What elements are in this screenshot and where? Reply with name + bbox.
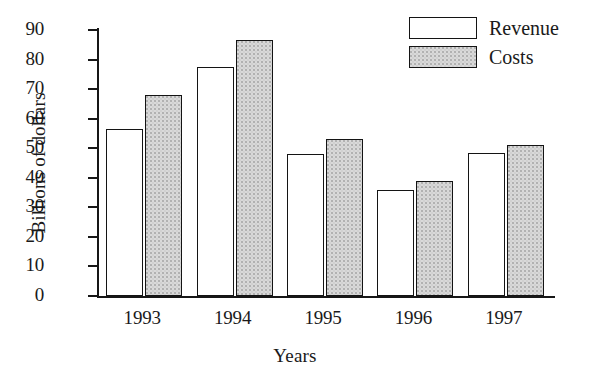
x-axis-line <box>97 296 555 298</box>
bar-revenue-1994 <box>197 67 234 296</box>
x-tick-label-1993: 1993 <box>97 307 187 329</box>
y-tick-mark-60 <box>88 118 97 120</box>
y-tick-label-20: 20 <box>2 226 44 245</box>
bar-costs-1997 <box>507 145 544 296</box>
y-tick-label-10: 10 <box>2 255 44 274</box>
y-tick-mark-90 <box>88 29 97 31</box>
x-tick-label-1995: 1995 <box>278 307 368 329</box>
plot-area <box>97 30 549 296</box>
bar-revenue-1996 <box>377 190 414 296</box>
y-tick-label-30: 30 <box>2 196 44 215</box>
bar-revenue-1997 <box>468 153 505 296</box>
x-tick-label-1994: 1994 <box>187 307 277 329</box>
y-tick-label-80: 80 <box>2 49 44 68</box>
y-tick-mark-50 <box>88 147 97 149</box>
y-tick-label-40: 40 <box>2 167 44 186</box>
y-tick-mark-30 <box>88 206 97 208</box>
y-tick-label-0: 0 <box>2 285 44 304</box>
y-tick-mark-10 <box>88 265 97 267</box>
bar-costs-1994 <box>236 40 273 296</box>
y-tick-mark-20 <box>88 236 97 238</box>
bar-costs-1993 <box>145 95 182 296</box>
y-tick-label-70: 70 <box>2 78 44 97</box>
y-tick-mark-80 <box>88 59 97 61</box>
y-tick-label-60: 60 <box>2 108 44 127</box>
y-tick-mark-70 <box>88 88 97 90</box>
y-tick-label-90: 90 <box>2 19 44 38</box>
x-axis-title: Years <box>0 345 590 367</box>
x-tick-label-1997: 1997 <box>459 307 549 329</box>
bar-costs-1996 <box>416 181 453 296</box>
bar-costs-1995 <box>326 139 363 296</box>
bar-revenue-1993 <box>106 129 143 296</box>
y-tick-mark-0 <box>88 295 97 297</box>
bar-chart: Revenue Costs Billions of dollars 010203… <box>0 0 590 387</box>
bar-revenue-1995 <box>287 154 324 296</box>
y-tick-mark-40 <box>88 177 97 179</box>
y-tick-label-50: 50 <box>2 137 44 156</box>
x-tick-label-1996: 1996 <box>368 307 458 329</box>
